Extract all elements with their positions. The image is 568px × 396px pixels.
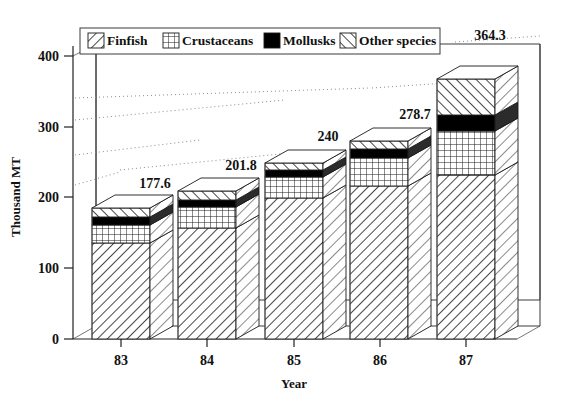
legend-label-mollusks: Mollusks (283, 33, 336, 48)
segment-finfish-87[interactable] (437, 175, 495, 339)
segment-finfish-83-side (150, 230, 173, 339)
bar-group-86[interactable]: 278.7 (350, 107, 431, 339)
value-label-86: 278.7 (399, 107, 431, 122)
segment-other-84[interactable] (178, 191, 236, 200)
y-tick-0: 0 (52, 332, 59, 347)
legend-item-crustaceans[interactable]: Crustaceans (163, 33, 253, 48)
stacked-bar-chart: 400 300 200 100 0 Thousand MT 83 84 85 8… (0, 0, 568, 396)
x-axis-title: Year (281, 376, 307, 391)
segment-mollusks-86[interactable] (350, 149, 408, 158)
chart-canvas: 400 300 200 100 0 Thousand MT 83 84 85 8… (0, 0, 568, 396)
legend-label-crustaceans: Crustaceans (182, 33, 253, 48)
segment-finfish-86-side (408, 173, 431, 339)
segment-other-87[interactable] (437, 79, 495, 115)
legend-item-mollusks[interactable]: Mollusks (264, 33, 336, 48)
segment-mollusks-84[interactable] (178, 200, 236, 207)
segment-finfish-85[interactable] (265, 198, 323, 339)
segment-crustaceans-84[interactable] (178, 207, 236, 228)
y-axis: 400 300 200 100 0 Thousand MT (8, 46, 73, 347)
segment-finfish-84[interactable] (178, 228, 236, 339)
legend-swatch-mollusks (264, 33, 280, 48)
y-tick-400: 400 (38, 49, 59, 64)
legend-swatch-crustaceans (163, 33, 179, 48)
segment-other-86[interactable] (350, 141, 408, 149)
bar-group-87[interactable]: 364.3 (437, 28, 518, 339)
x-tick-84: 84 (200, 353, 214, 368)
segment-mollusks-87[interactable] (437, 115, 495, 131)
segment-mollusks-83[interactable] (92, 217, 150, 225)
legend-label-finfish: Finfish (107, 33, 148, 48)
value-label-84: 201.8 (225, 158, 257, 173)
bar-group-83[interactable]: 177.6 (92, 176, 173, 339)
segment-crustaceans-86[interactable] (350, 158, 408, 186)
legend-label-other-species: Other species (359, 33, 436, 48)
y-tick-200: 200 (38, 190, 59, 205)
segment-finfish-84-side (236, 215, 259, 339)
value-label-83: 177.6 (139, 176, 171, 191)
x-tick-86: 86 (373, 353, 387, 368)
segment-finfish-87-side (495, 162, 518, 339)
bar-group-85[interactable]: 240 (265, 129, 346, 339)
segment-crustaceans-87[interactable] (437, 131, 495, 175)
x-tick-87: 87 (459, 353, 473, 368)
y-tick-100: 100 (38, 261, 59, 276)
bar-group-84[interactable]: 201.8 (178, 158, 259, 339)
segment-finfish-85-side (323, 185, 346, 339)
segment-finfish-83[interactable] (92, 243, 150, 339)
segment-finfish-86[interactable] (350, 186, 408, 339)
legend: Finfish Crustaceans Mollusks Other speci… (80, 28, 440, 54)
segment-crustaceans-85[interactable] (265, 177, 323, 198)
value-label-85: 240 (318, 129, 339, 144)
segment-other-83[interactable] (92, 208, 150, 217)
x-tick-83: 83 (114, 353, 128, 368)
x-axis: 83 84 85 86 87 Year (73, 339, 517, 391)
segment-mollusks-85[interactable] (265, 170, 323, 177)
y-tick-300: 300 (38, 120, 59, 135)
segment-crustaceans-83[interactable] (92, 225, 150, 243)
y-axis-title: Thousand MT (8, 157, 23, 237)
value-label-87: 364.3 (474, 28, 506, 43)
x-tick-85: 85 (287, 353, 301, 368)
segment-other-85[interactable] (265, 163, 323, 170)
legend-item-finfish[interactable]: Finfish (88, 33, 148, 48)
legend-swatch-other-species (340, 33, 356, 48)
legend-item-other-species[interactable]: Other species (340, 33, 436, 48)
legend-swatch-finfish (88, 33, 104, 48)
